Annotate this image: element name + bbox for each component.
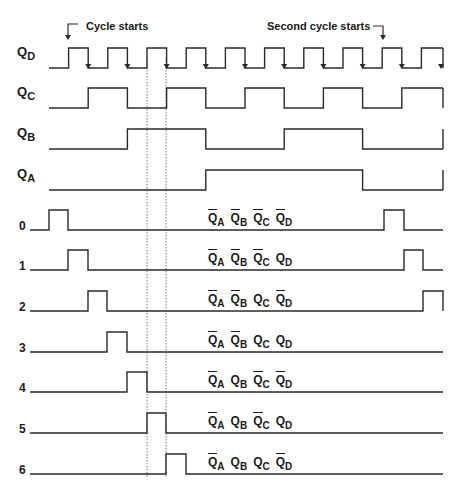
not-q-d: QD	[276, 374, 293, 390]
not-q-b: QB	[231, 293, 248, 309]
state-expression-1: QAQBQCQD	[208, 252, 298, 268]
state-expression-4: QAQBQCQD	[208, 374, 298, 390]
q-b: QB	[231, 415, 248, 431]
cycle-start-arrowhead-icon	[65, 35, 71, 40]
signal-label-qc: QC	[17, 85, 35, 102]
q-c: QC	[253, 456, 270, 472]
cycle-starts-annotation: Cycle starts	[86, 21, 148, 32]
output-label-4: 4	[19, 382, 26, 394]
output-label-0: 0	[19, 220, 26, 232]
cycle-start-arrow-icon	[68, 24, 78, 36]
second-cycle-arrow-icon	[373, 26, 383, 36]
not-q-a: QA	[208, 293, 225, 309]
second-cycle-starts-annotation: Second cycle starts	[267, 21, 370, 32]
signal-label-qd: QD	[17, 45, 35, 62]
q-d: QD	[276, 334, 293, 350]
state-expression-3: QAQBQCQD	[208, 334, 298, 350]
q-d: QD	[276, 252, 293, 268]
q-b: QB	[231, 374, 248, 390]
q-b: QB	[231, 456, 248, 472]
waveform-qc	[49, 88, 443, 108]
output-label-5: 5	[19, 423, 26, 435]
not-q-d: QD	[276, 456, 293, 472]
not-q-c: QC	[253, 252, 270, 268]
not-q-a: QA	[208, 252, 225, 268]
q-c: QC	[253, 293, 270, 309]
output-label-3: 3	[19, 342, 26, 354]
state-expression-0: QAQBQCQD	[208, 212, 298, 228]
not-q-a: QA	[208, 212, 225, 228]
output-label-1: 1	[19, 260, 26, 272]
not-q-a: QA	[208, 456, 225, 472]
not-q-c: QC	[253, 212, 270, 228]
not-q-a: QA	[208, 374, 225, 390]
output-label-6: 6	[19, 464, 26, 476]
not-q-d: QD	[276, 293, 293, 309]
q-c: QC	[253, 334, 270, 350]
state-expression-6: QAQBQCQD	[208, 456, 298, 472]
waveform-qa	[49, 170, 443, 190]
output-label-2: 2	[19, 301, 26, 313]
dotted-marker-lines	[147, 58, 166, 478]
not-q-a: QA	[208, 415, 225, 431]
state-expression-5: QAQBQCQD	[208, 415, 298, 431]
waveform-qb	[49, 129, 443, 149]
not-q-a: QA	[208, 334, 225, 350]
not-q-c: QC	[253, 415, 270, 431]
q-d: QD	[276, 415, 293, 431]
not-q-b: QB	[231, 212, 248, 228]
second-cycle-arrowhead-icon	[380, 35, 386, 40]
state-expression-2: QAQBQCQD	[208, 293, 298, 309]
not-q-d: QD	[276, 212, 293, 228]
not-q-b: QB	[231, 252, 248, 268]
not-q-b: QB	[231, 334, 248, 350]
not-q-c: QC	[253, 374, 270, 390]
signal-label-qa: QA	[17, 167, 35, 184]
signal-label-qb: QB	[17, 126, 35, 143]
